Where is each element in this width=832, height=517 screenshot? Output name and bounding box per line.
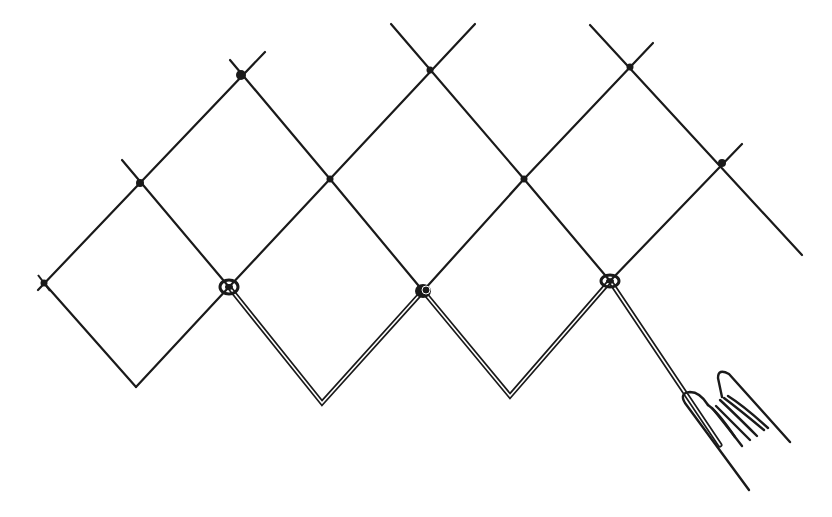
knot bbox=[327, 176, 334, 183]
knot bbox=[136, 179, 144, 187]
knot bbox=[427, 67, 434, 74]
net-drawing bbox=[0, 0, 832, 517]
large-knot bbox=[415, 284, 431, 298]
doubled-cord bbox=[229, 281, 720, 445]
knot bbox=[718, 159, 726, 167]
knot bbox=[627, 64, 634, 71]
net-diagram bbox=[0, 0, 832, 517]
mesh-lines bbox=[38, 24, 802, 387]
large-knot bbox=[220, 280, 238, 294]
hand-icon bbox=[683, 372, 790, 490]
knot bbox=[236, 70, 246, 80]
knot bbox=[521, 176, 528, 183]
knots bbox=[38, 64, 726, 299]
